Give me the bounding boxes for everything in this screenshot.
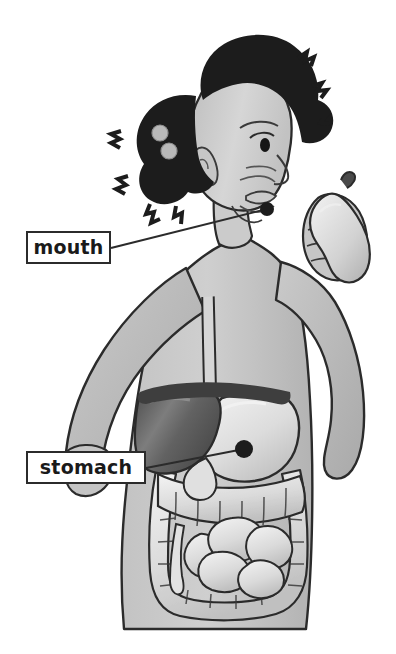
hair-bead-lower: [161, 143, 177, 159]
figure-canvas: mouth stomach: [0, 0, 396, 654]
body-group: [64, 35, 370, 629]
pear-stem: [341, 172, 355, 188]
stomach-marker-dot: [235, 440, 253, 458]
mouth-marker-dot: [260, 202, 274, 216]
label-stomach: stomach: [26, 451, 146, 484]
lips: [246, 192, 276, 204]
eye: [260, 138, 270, 152]
hair-bead-upper: [152, 125, 168, 141]
label-mouth: mouth: [26, 231, 111, 264]
anatomy-illustration: [0, 0, 396, 654]
